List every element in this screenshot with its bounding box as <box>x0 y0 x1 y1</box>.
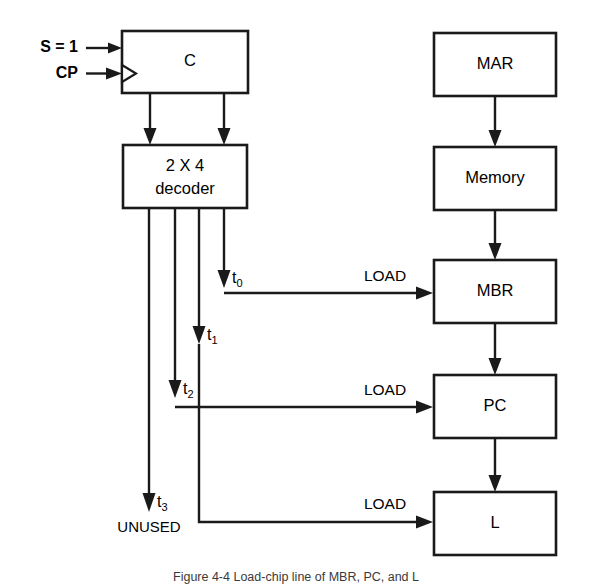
unused-label: UNUSED <box>117 518 181 535</box>
mbr-box-label: MBR <box>477 281 514 299</box>
memory-to-mbr-wire-group <box>489 210 502 260</box>
input-cp-group: CP <box>56 64 122 81</box>
l-box-label: L <box>490 513 499 531</box>
mar-box-label: MAR <box>477 54 514 72</box>
signal-t1-label: t1 <box>207 326 218 346</box>
counter-block-group: C <box>122 31 248 93</box>
signal-t3-label: t3 <box>157 493 168 513</box>
figure-diagram-root: C S = 1 CP 2 X 4 decoder <box>0 0 592 585</box>
load-l-label: LOAD <box>364 495 406 512</box>
mar-block-group: MAR <box>434 33 556 96</box>
input-s-label: S = 1 <box>40 38 78 55</box>
arrowhead-icon <box>489 130 502 147</box>
arrowhead-icon <box>108 43 122 54</box>
pc-to-l-wire-group <box>489 438 502 492</box>
arrowhead-icon <box>416 287 433 300</box>
arrowhead-icon <box>143 493 156 512</box>
signal-t2-group: t2 LOAD <box>169 208 434 414</box>
arrowhead-icon <box>106 68 122 80</box>
load-pc-label: LOAD <box>364 381 406 398</box>
block-diagram-svg: C S = 1 CP 2 X 4 decoder <box>0 0 592 585</box>
counter-box-label: C <box>184 51 196 69</box>
mbr-block-group: MBR <box>434 260 556 323</box>
arrowhead-icon <box>416 401 433 414</box>
arrowhead-icon <box>489 358 502 375</box>
arrowhead-icon <box>489 475 502 492</box>
mbr-to-pc-wire-group <box>489 323 502 375</box>
l-block-group: L <box>434 492 556 555</box>
arrowhead-icon <box>169 380 182 398</box>
arrowhead-icon <box>144 128 157 145</box>
arrowhead-icon <box>416 516 433 529</box>
pc-box-label: PC <box>484 396 507 414</box>
input-s-group: S = 1 <box>40 38 122 55</box>
signal-t0-label: t0 <box>232 269 243 289</box>
memory-block-group: Memory <box>434 147 556 210</box>
input-cp-label: CP <box>56 64 79 81</box>
arrowhead-icon <box>489 243 502 260</box>
signal-t1-group: t1 LOAD <box>193 208 434 529</box>
arrowhead-icon <box>218 128 231 145</box>
pc-block-group: PC <box>434 375 556 438</box>
memory-box-label: Memory <box>465 168 525 186</box>
figure-caption: Figure 4-4 Load-chip line of MBR, PC, an… <box>173 570 419 584</box>
arrowhead-icon <box>193 326 206 344</box>
signal-t3-group: t3 UNUSED <box>117 208 181 535</box>
arrowhead-icon <box>218 270 231 288</box>
decoder-block-group: 2 X 4 decoder <box>123 145 247 208</box>
decoder-box-label-line1: 2 X 4 <box>166 156 205 174</box>
load-mbr-label: LOAD <box>364 267 406 284</box>
counter-to-decoder-wires <box>144 93 231 145</box>
decoder-box-label-line2: decoder <box>155 179 215 197</box>
signal-t0-group: t0 LOAD <box>218 208 434 300</box>
mar-to-memory-wire-group <box>489 96 502 147</box>
signal-t2-label: t2 <box>183 380 194 400</box>
decoder-box <box>123 145 247 208</box>
